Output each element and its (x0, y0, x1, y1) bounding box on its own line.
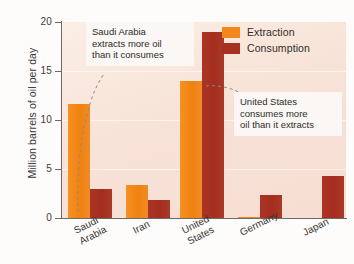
y-tick-mark-0 (55, 218, 61, 219)
bar-extraction-0 (68, 104, 90, 218)
y-tick-label-0: 0 (16, 212, 52, 223)
bar-consumption-0 (90, 189, 112, 218)
oil-extraction-consumption-chart: 20 15 10 5 0 Million barrels of oil per … (0, 0, 354, 264)
y-axis-line (61, 21, 62, 219)
bar-consumption-4 (322, 176, 344, 218)
annotation-saudi-arabia: Saudi Arabia extracts more oil than it c… (86, 22, 194, 66)
bar-extraction-1 (126, 185, 148, 218)
legend-swatch-extraction-icon (222, 27, 240, 38)
legend-label-extraction: Extraction (247, 26, 295, 38)
legend-item-consumption: Consumption (222, 42, 310, 54)
legend: Extraction Consumption (222, 26, 310, 58)
x-label-iran: Iran (131, 218, 152, 237)
y-tick-mark-5 (55, 169, 61, 170)
x-label-japan: Japan (301, 216, 331, 239)
annotation-united-states: United States consumes more oil than it … (234, 92, 342, 136)
legend-item-extraction: Extraction (222, 26, 310, 38)
x-label-line1: Japan (301, 216, 331, 239)
y-tick-mark-20 (55, 22, 61, 23)
bar-extraction-2 (180, 81, 202, 218)
x-label-line1: Iran (131, 218, 152, 237)
y-tick-mark-15 (55, 71, 61, 72)
bar-consumption-2 (202, 32, 224, 218)
y-axis-title: Million barrels of oil per day (26, 18, 38, 208)
legend-label-consumption: Consumption (247, 42, 310, 54)
legend-swatch-consumption-icon (222, 43, 240, 54)
bar-consumption-1 (148, 200, 170, 218)
y-tick-mark-10 (55, 120, 61, 121)
